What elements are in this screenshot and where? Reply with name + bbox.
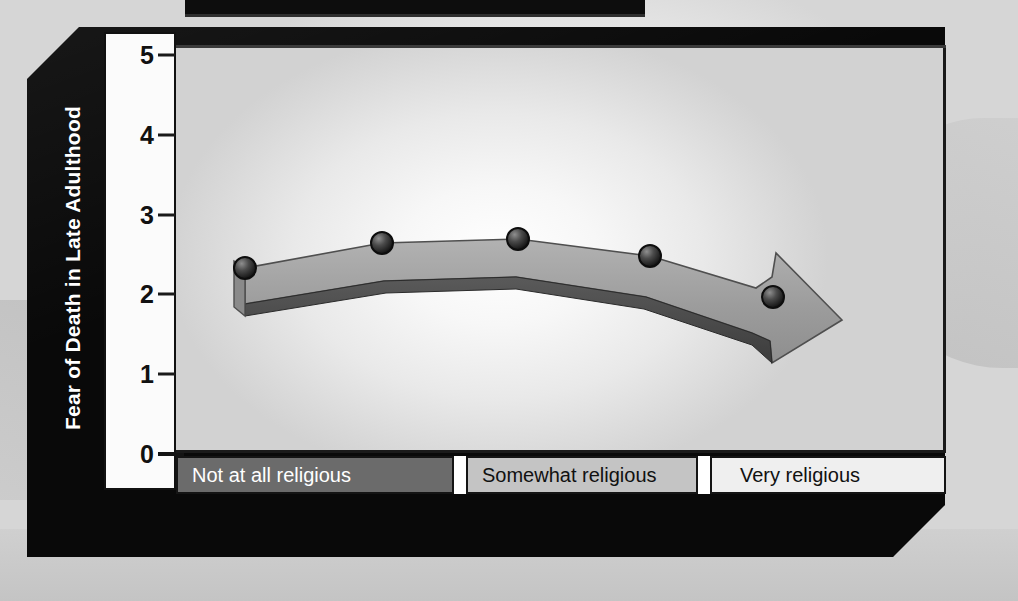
- x-axis-category-row: Not at all religious Somewhat religious …: [176, 456, 946, 494]
- y-tick-mark-5: [158, 54, 175, 57]
- y-tick-mark-3: [158, 213, 175, 216]
- category-gap-1: [454, 456, 466, 494]
- category-gap-2: [698, 456, 710, 494]
- y-tick-mark-1: [158, 373, 175, 376]
- category-label-1: Not at all religious: [192, 464, 351, 487]
- y-tick-label-1: 1: [140, 362, 154, 387]
- data-point-1: [234, 257, 256, 279]
- data-point-3: [507, 228, 529, 250]
- data-point-2: [371, 232, 393, 254]
- y-axis-title-text: Fear of Death in Late Adulthood: [61, 106, 85, 430]
- y-tick-label-5: 5: [140, 43, 154, 68]
- y-tick-label-3: 3: [140, 202, 154, 227]
- y-tick-label-0: 0: [140, 442, 154, 467]
- y-tick-mark-2: [158, 293, 175, 296]
- y-tick-label-2: 2: [140, 282, 154, 307]
- data-point-4: [639, 245, 661, 267]
- poster-background: Fear of Death in Late Adulthood 543210: [0, 0, 1018, 601]
- category-label-2: Somewhat religious: [482, 464, 657, 487]
- series-arrow-ribbon: [176, 45, 946, 453]
- y-axis-title: Fear of Death in Late Adulthood: [52, 45, 94, 490]
- category-box-2: Somewhat religious: [466, 456, 698, 494]
- category-label-3: Very religious: [740, 464, 860, 487]
- y-tick-mark-4: [158, 133, 175, 136]
- category-box-1: Not at all religious: [176, 456, 454, 494]
- y-axis-scale: 543210: [104, 32, 176, 490]
- category-box-3: Very religious: [710, 456, 946, 494]
- y-tick-label-4: 4: [140, 122, 154, 147]
- data-point-5: [762, 286, 784, 308]
- title-bar-cropped: [185, 0, 645, 14]
